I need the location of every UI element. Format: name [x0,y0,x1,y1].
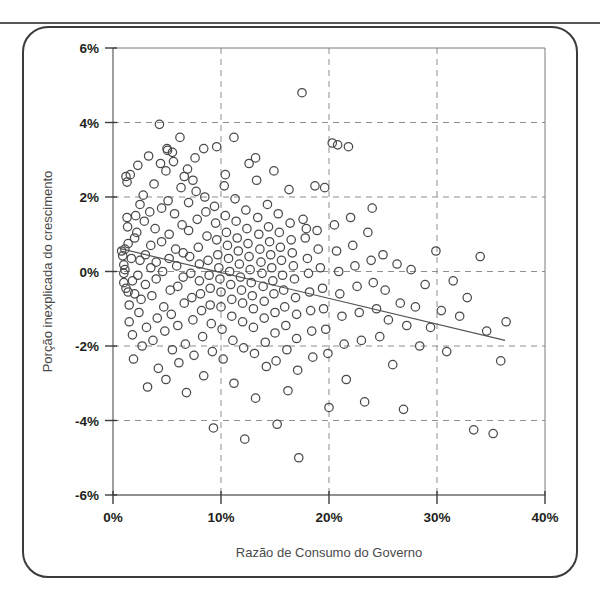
data-point [302,224,310,232]
data-point [273,420,281,428]
data-point [338,312,346,320]
data-point [256,245,264,253]
data-point [218,325,226,333]
data-point [151,224,159,232]
data-point [399,405,407,413]
data-point [157,238,165,246]
data-point [285,185,293,193]
data-point [233,234,241,242]
data-point [272,357,280,365]
y-tick-label: 0% [79,265,99,280]
data-point [482,327,490,335]
data-point [234,247,242,255]
data-point [455,312,463,320]
data-point [340,340,348,348]
data-point [143,383,151,391]
data-point [162,375,170,383]
data-point [211,219,219,227]
data-point [222,228,230,236]
data-point [215,264,223,272]
data-point [437,306,445,314]
data-point [181,340,189,348]
data-point [164,197,172,205]
y-tick-label: -2% [75,339,99,354]
data-point [286,219,294,227]
data-point [238,318,246,326]
data-point [194,243,202,251]
data-point [153,314,161,322]
data-point [154,364,162,372]
data-point [242,206,250,214]
data-point [192,187,200,195]
x-tick-label: 20% [315,510,342,525]
data-point [281,303,289,311]
data-point [426,323,434,331]
data-point [381,286,389,294]
data-point [249,323,257,331]
data-point [206,301,214,309]
data-point [169,157,177,165]
data-point [148,292,156,300]
data-point [127,254,135,262]
data-point [160,303,168,311]
data-point [224,254,232,262]
data-point [393,260,401,268]
data-point [463,293,471,301]
data-point [223,241,231,249]
data-point [258,269,266,277]
data-point [346,213,354,221]
data-point [389,360,397,368]
x-tick-label: 30% [423,510,450,525]
data-point [149,336,157,344]
data-point [205,271,213,279]
x-tick-label: 40% [531,510,558,525]
data-point [379,251,387,259]
data-point [140,217,148,225]
x-axis-title: Razão de Consumo do Governo [236,545,422,560]
data-point [196,290,204,298]
data-point [136,200,144,208]
data-point [219,355,227,363]
data-point [237,286,245,294]
data-point [351,262,359,270]
data-point [214,251,222,259]
data-point [355,308,363,316]
data-point [313,226,321,234]
data-point [134,271,142,279]
data-point [125,301,133,309]
data-point [239,344,247,352]
data-point [216,275,224,283]
data-point [316,264,324,272]
data-point [125,318,133,326]
data-point [120,278,128,286]
data-point [283,346,291,354]
data-point [129,355,137,363]
data-point [228,312,236,320]
data-point [197,306,205,314]
data-point [271,329,279,337]
data-point [180,299,188,307]
data-point [336,290,344,298]
data-point [134,161,142,169]
data-point [324,349,332,357]
data-point [249,305,257,313]
data-point [180,172,188,180]
data-point [260,314,268,322]
x-tick-label: 0% [103,510,123,525]
data-point [150,180,158,188]
data-point [195,277,203,285]
data-point [292,334,300,342]
data-point [229,336,237,344]
data-point [241,435,249,443]
data-point [314,245,322,253]
data-point [212,236,220,244]
data-point [292,310,300,318]
data-point [155,120,163,128]
data-point [228,295,236,303]
data-point [137,295,145,303]
data-point [177,183,185,191]
data-point [303,254,311,262]
data-point [185,252,193,260]
data-point [191,154,199,162]
scatter-plot-figure: 6%4%2%0%-2%-4%-6%0%10%20%30%40%Razão de … [0,0,600,598]
